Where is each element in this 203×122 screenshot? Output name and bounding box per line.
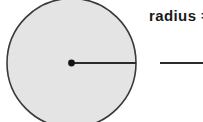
radius-prompt-label: radius = <box>149 7 203 24</box>
center-point-dot <box>68 60 75 67</box>
radius-answer-blank[interactable] <box>160 62 203 64</box>
worksheet-figure-panel: radius = <box>0 0 203 122</box>
